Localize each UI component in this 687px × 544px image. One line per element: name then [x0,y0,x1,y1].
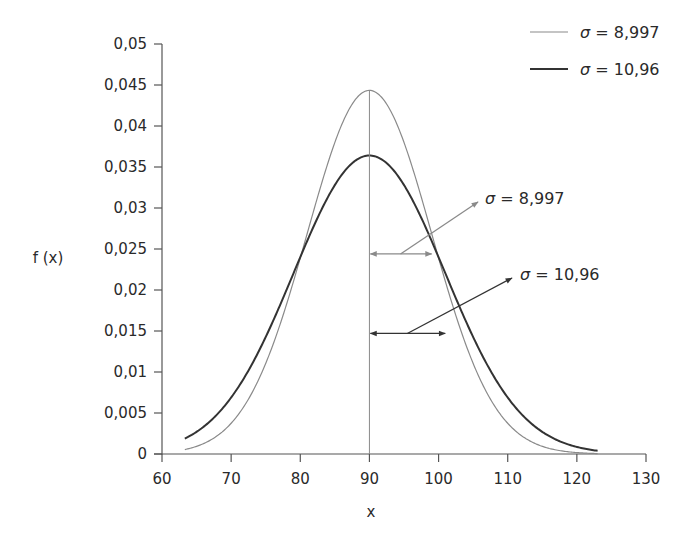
x-tick-label: 70 [222,470,241,488]
normal-distribution-chart: 00,0050,010,0150,020,0250,030,0350,040,0… [0,0,687,544]
annotation-label-sigma-1096: σ = 10,96 [520,265,600,284]
y-tick-label: 0 [137,445,147,463]
x-tick-label: 80 [291,470,310,488]
y-axis-label: f (x) [33,249,64,267]
y-tick-label: 0,04 [114,117,147,135]
y-tick-label: 0,045 [104,76,147,94]
y-tick-label: 0,05 [114,35,147,53]
legend: σ = 8,997 σ = 10,96 [530,23,660,79]
x-tick-label: 90 [360,470,379,488]
y-axis: 00,0050,010,0150,020,0250,030,0350,040,0… [104,35,162,463]
y-tick-label: 0,02 [114,281,147,299]
annotation-pointer-arrow [401,202,478,254]
annotation-label-sigma-8997: σ = 8,997 [485,189,565,208]
x-tick-label: 100 [424,470,453,488]
y-tick-label: 0,035 [104,158,147,176]
legend-label-sigma-1096: σ = 10,96 [580,60,660,79]
y-tick-label: 0,01 [114,363,147,381]
y-tick-label: 0,03 [114,199,147,217]
x-tick-label: 60 [152,470,171,488]
y-tick-label: 0,015 [104,322,147,340]
x-axis: 60708090100110120130 [152,454,660,488]
y-tick-label: 0,005 [104,404,147,422]
legend-label-sigma-8997: σ = 8,997 [580,23,660,42]
x-tick-label: 120 [563,470,592,488]
x-tick-label: 130 [632,470,661,488]
x-tick-label: 110 [493,470,522,488]
x-axis-label: x [367,503,376,521]
y-tick-label: 0,025 [104,240,147,258]
